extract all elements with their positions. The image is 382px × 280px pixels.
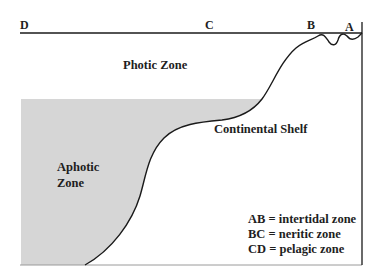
photic-zone-label: Photic Zone — [123, 58, 187, 73]
aphotic-zone-label-line2: Zone — [57, 176, 84, 191]
point-label-d: D — [20, 18, 29, 33]
point-label-a: A — [345, 20, 354, 35]
zone-legend: AB = intertidal zone BC = neritic zone C… — [248, 212, 356, 257]
point-label-c: C — [205, 18, 214, 33]
point-label-b: B — [307, 18, 315, 33]
continental-shelf-label: Continental Shelf — [214, 122, 307, 137]
legend-item-neritic: BC = neritic zone — [248, 227, 356, 242]
legend-item-pelagic: CD = pelagic zone — [248, 242, 356, 257]
legend-item-intertidal: AB = intertidal zone — [248, 212, 356, 227]
aphotic-zone-label-line1: Aphotic — [57, 160, 99, 175]
